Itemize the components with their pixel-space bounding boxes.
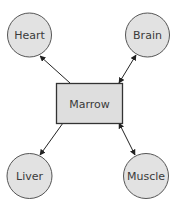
edge-marrow-heart: [40, 56, 70, 83]
liver-label: Liver: [16, 170, 43, 183]
edge-marrow-brain: [119, 55, 136, 83]
diagram-canvas: Marrow Heart Brain Liver Muscle: [0, 0, 181, 208]
heart-label: Heart: [14, 29, 45, 42]
brain-node: Brain: [126, 13, 170, 57]
edge-marrow-liver: [40, 123, 63, 155]
marrow-label: Marrow: [69, 98, 110, 111]
heart-node: Heart: [8, 13, 52, 57]
edge-marrow-muscle: [119, 123, 135, 155]
brain-label: Brain: [133, 29, 162, 42]
marrow-node: Marrow: [57, 84, 123, 124]
liver-node: Liver: [7, 154, 52, 199]
muscle-node: Muscle: [124, 154, 169, 199]
muscle-label: Muscle: [127, 170, 165, 183]
